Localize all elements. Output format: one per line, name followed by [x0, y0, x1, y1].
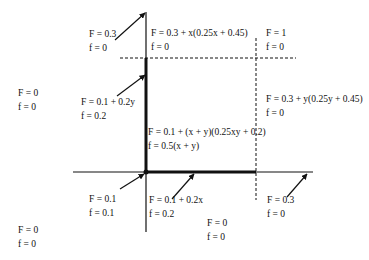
label-bottom-x-arrow: F = 0.1 + 0.2x f = 0.2 [149, 193, 203, 221]
label-left-mid-arrow: F = 0.1 + 0.2y f = 0.2 [81, 95, 135, 123]
label-bottom-center: F = 0 f = 0 [207, 216, 227, 244]
arrow-origin [120, 174, 144, 189]
cdf-pdf-region-diagram: F = 0.3 f = 0 F = 0.3 + x(0.25x + 0.45) … [0, 0, 369, 260]
label-right-mid: F = 0.3 + y(0.25y + 0.45) f = 0 [266, 92, 363, 120]
label-origin-arrow: F = 0.1 f = 0.1 [89, 192, 116, 220]
label-top-right: F = 1 f = 0 [266, 26, 286, 54]
label-center: F = 0.1 + (x + y)(0.25xy + 0.2) f = 0.5(… [148, 125, 266, 153]
label-top-upper: F = 0.3 + x(0.25x + 0.45) f = 0 [151, 26, 248, 54]
arrow-left-mid [117, 75, 145, 96]
label-bottom-right-arrow: F = 0.3 f = 0 [267, 193, 294, 221]
label-far-left-lower: F = 0 f = 0 [18, 223, 38, 251]
arrow-top [115, 13, 145, 40]
label-top-left-arrow: F = 0.3 f = 0 [89, 27, 116, 55]
label-far-left-upper: F = 0 f = 0 [18, 86, 38, 114]
origin-point [144, 170, 149, 175]
